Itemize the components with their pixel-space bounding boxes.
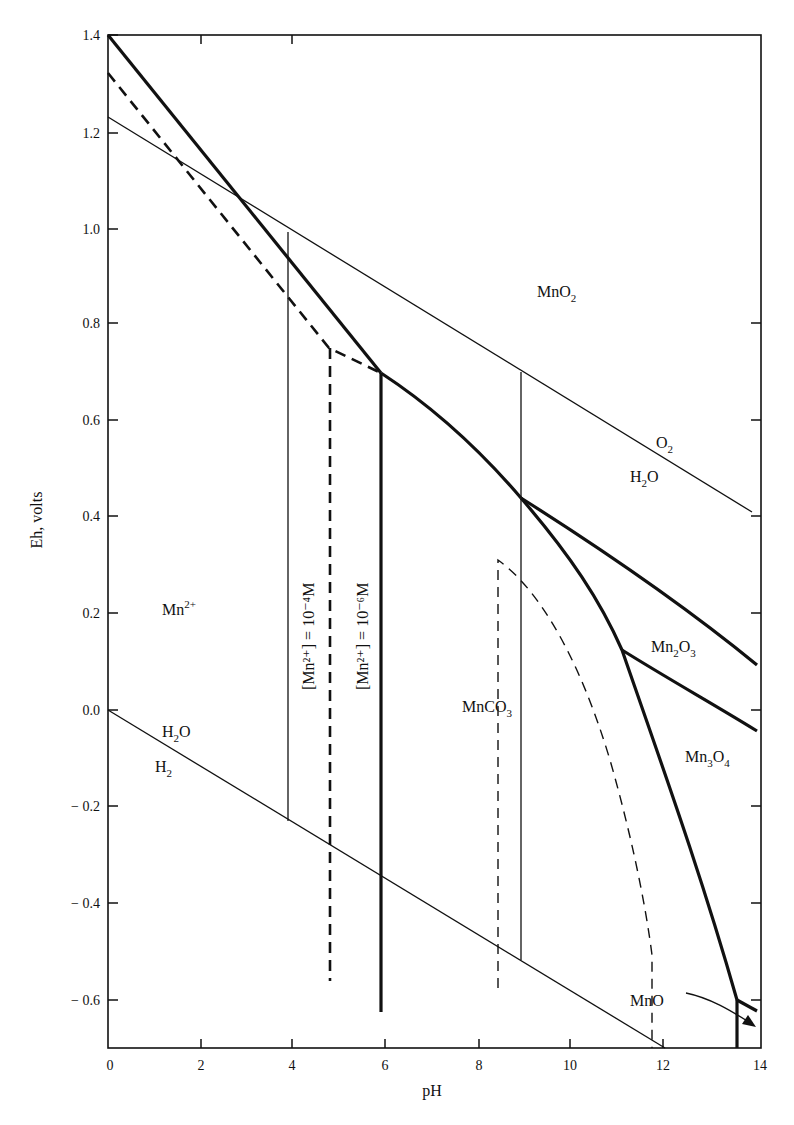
- label-conc-1e4: [Mn²⁺] = 10⁻⁴M: [300, 583, 317, 690]
- mno2-curve: [381, 373, 521, 498]
- y-tick: 0.6: [83, 413, 101, 428]
- x-axis-title: pH: [422, 1082, 442, 1100]
- label-mn2o3: Mn2O3: [651, 638, 696, 659]
- eh-ph-diagram: 1.4 1.2 1.0 0.8 0.6 0.4 0.2 0.0 − 0.2 − …: [0, 0, 794, 1125]
- label-o2: O2: [656, 434, 673, 455]
- x-tick: 10: [563, 1058, 577, 1073]
- o2-h2o-line: [108, 117, 752, 512]
- arrow-head-icon: [742, 1015, 756, 1027]
- y-tick: − 0.6: [71, 993, 100, 1008]
- x-tick: 4: [289, 1058, 296, 1073]
- mn2-mno2-boundary-1e4: [108, 73, 381, 373]
- label-conc-1e6: [Mn²⁺] = 10⁻⁶M: [354, 583, 371, 690]
- label-mn3o4: Mn3O4: [685, 748, 730, 769]
- label-h2: H2: [155, 758, 172, 779]
- y-tick: 1.4: [83, 28, 101, 43]
- label-mn2plus: Mn2+: [162, 598, 196, 618]
- mno2-mn2o3-boundary: [521, 498, 757, 665]
- y-tick: 0.2: [83, 606, 101, 621]
- y-tick-labels: 1.4 1.2 1.0 0.8 0.6 0.4 0.2 0.0 − 0.2 − …: [71, 28, 100, 1008]
- y-tick: 0.0: [83, 703, 101, 718]
- y-tick: 0.4: [83, 509, 101, 524]
- mno-arrow: [686, 993, 752, 1024]
- y-axis-ticks: [108, 35, 761, 1000]
- x-tick: 6: [382, 1058, 389, 1073]
- plot-frame: [108, 35, 761, 1048]
- y-tick: − 0.4: [71, 896, 100, 911]
- y-tick: − 0.2: [71, 799, 100, 814]
- label-h2o-upper: H2O: [630, 468, 659, 489]
- mn2o3-mn3o4-lower: [622, 650, 757, 731]
- label-mno2: MnO2: [537, 283, 576, 304]
- x-tick-labels: 0 2 4 6 8 10 12 14: [107, 1058, 768, 1073]
- x-tick: 0: [107, 1058, 114, 1073]
- mn2-mno2-boundary: [108, 35, 381, 373]
- x-tick: 2: [198, 1058, 205, 1073]
- label-mno: MnO: [630, 992, 664, 1009]
- y-tick: 1.0: [83, 222, 101, 237]
- y-tick: 0.8: [83, 316, 101, 331]
- label-h2o-lower: H2O: [162, 723, 191, 744]
- mno-upper-edge: [737, 1000, 757, 1011]
- x-tick: 8: [476, 1058, 483, 1073]
- x-tick: 14: [753, 1058, 767, 1073]
- label-mnco3: MnCO3: [462, 698, 512, 719]
- x-tick: 12: [656, 1058, 670, 1073]
- h2o-h2-line: [108, 710, 665, 1048]
- y-axis-title: Eh, volts: [28, 492, 45, 549]
- x-axis-ticks: [201, 35, 663, 1048]
- y-tick: 1.2: [83, 126, 101, 141]
